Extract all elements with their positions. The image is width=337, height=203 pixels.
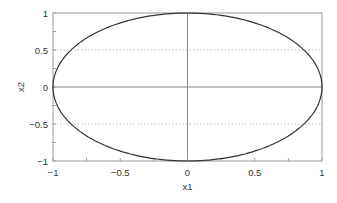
zero-lines [53, 13, 322, 161]
chart: −1−0.500.51 −1−0.500.51 x1 x2 [0, 0, 337, 203]
y-tick-labels: −1−0.500.51 [29, 8, 48, 167]
x-tick-labels: −1−0.500.51 [48, 167, 325, 178]
y-tick-label: 0 [43, 82, 48, 93]
x-axis-label: x1 [182, 181, 192, 192]
x-tick-label: −0.5 [111, 167, 130, 178]
x-tick-label: −1 [48, 167, 59, 178]
y-tick-label: 1 [43, 8, 48, 19]
x-tick-label: 0 [185, 167, 190, 178]
y-axis-label: x2 [15, 82, 26, 92]
x-tick-label: 0.5 [248, 167, 261, 178]
y-tick-label: −1 [37, 156, 48, 167]
y-tick-label: 0.5 [35, 45, 48, 56]
y-tick-label: −0.5 [29, 119, 48, 130]
x-tick-label: 1 [319, 167, 324, 178]
